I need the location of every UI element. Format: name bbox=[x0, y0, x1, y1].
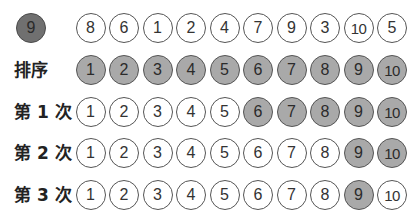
number-circle: 10 bbox=[377, 180, 407, 210]
number-circle: 2 bbox=[109, 97, 139, 127]
number-circle: 9 bbox=[277, 13, 307, 43]
number-circle: 3 bbox=[143, 97, 173, 127]
number-circle: 1 bbox=[76, 138, 106, 168]
row-label: 第 1 次 bbox=[14, 102, 72, 122]
number-circle: 1 bbox=[143, 13, 173, 43]
number-circle: 5 bbox=[210, 138, 240, 168]
number-circle: 4 bbox=[176, 180, 206, 210]
number-circle: 8 bbox=[76, 13, 106, 43]
number-circle: 8 bbox=[310, 180, 340, 210]
number-circle: 3 bbox=[143, 138, 173, 168]
number-circle: 1 bbox=[76, 55, 106, 85]
number-circle: 7 bbox=[277, 97, 307, 127]
number-circle: 10 bbox=[377, 138, 407, 168]
number-circle: 4 bbox=[176, 55, 206, 85]
number-circle: 1 bbox=[76, 180, 106, 210]
number-circle: 2 bbox=[109, 55, 139, 85]
number-circle: 7 bbox=[277, 55, 307, 85]
number-circle: 6 bbox=[243, 180, 273, 210]
number-circle: 9 bbox=[344, 55, 374, 85]
row-label: 第 3 次 bbox=[14, 185, 72, 205]
number-circle: 5 bbox=[210, 55, 240, 85]
number-circle: 8 bbox=[310, 97, 340, 127]
number-circle: 4 bbox=[210, 13, 240, 43]
row-label: 排序 bbox=[14, 60, 48, 80]
number-circle: 2 bbox=[176, 13, 206, 43]
number-circle: 3 bbox=[310, 13, 340, 43]
number-circle: 5 bbox=[377, 13, 407, 43]
number-circle: 8 bbox=[310, 138, 340, 168]
number-circle: 2 bbox=[109, 138, 139, 168]
number-circle: 6 bbox=[109, 13, 139, 43]
number-circle: 9 bbox=[344, 138, 374, 168]
number-circle: 10 bbox=[377, 55, 407, 85]
row-label: 第 2 次 bbox=[14, 143, 72, 163]
number-circle: 7 bbox=[243, 13, 273, 43]
number-circle: 5 bbox=[210, 97, 240, 127]
number-circle: 8 bbox=[310, 55, 340, 85]
number-circle: 6 bbox=[243, 138, 273, 168]
number-circle: 6 bbox=[243, 55, 273, 85]
number-circle: 6 bbox=[243, 97, 273, 127]
number-circle: 5 bbox=[210, 180, 240, 210]
number-circle: 7 bbox=[277, 180, 307, 210]
target-value-circle: 9 bbox=[16, 13, 46, 43]
number-circle: 9 bbox=[344, 97, 374, 127]
number-circle: 3 bbox=[143, 55, 173, 85]
number-circle: 4 bbox=[176, 138, 206, 168]
number-circle: 10 bbox=[344, 13, 374, 43]
number-circle: 4 bbox=[176, 97, 206, 127]
number-circle: 3 bbox=[143, 180, 173, 210]
number-circle: 7 bbox=[277, 138, 307, 168]
number-circle: 9 bbox=[344, 180, 374, 210]
number-circle: 1 bbox=[76, 97, 106, 127]
number-circle: 10 bbox=[377, 97, 407, 127]
number-circle: 2 bbox=[109, 180, 139, 210]
